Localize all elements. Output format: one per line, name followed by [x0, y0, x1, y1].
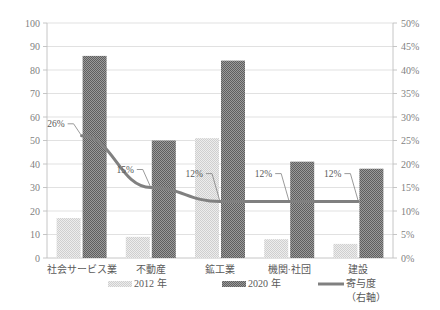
chart-container: 0102030405060708090100 0%5%10%15%20%25%3…	[0, 0, 440, 310]
right-axis-tick-label: 45%	[401, 41, 419, 52]
right-axis-tick-label: 15%	[401, 182, 419, 193]
right-axis-tick-label: 40%	[401, 65, 419, 76]
legend-swatch-2020	[222, 281, 246, 287]
left-axis-tick-label: 80	[30, 65, 40, 76]
data-label: 12%	[324, 169, 342, 179]
right-axis-tick-label: 50%	[401, 18, 419, 29]
right-axis-tick-label: 25%	[401, 135, 419, 146]
left-axis-tick-label: 0	[35, 253, 40, 264]
legend-label-2020: 2020 年	[248, 277, 281, 289]
legend-label-contribution: 寄与度	[346, 277, 376, 289]
bar-2020	[359, 169, 383, 258]
data-label: 26%	[47, 119, 65, 129]
legend-label-2012: 2012 年	[134, 277, 167, 289]
right-axis-tick-label: 20%	[401, 159, 419, 170]
left-axis-tick-label: 60	[30, 112, 40, 123]
legend-swatch-2012	[108, 281, 132, 287]
category-label: 建設	[348, 263, 368, 275]
bar-2012	[333, 244, 357, 258]
right-axis-tick-label: 10%	[401, 206, 419, 217]
left-axis-tick-label: 20	[30, 206, 40, 217]
data-label: 12%	[186, 169, 204, 179]
bar-2020	[152, 141, 176, 259]
left-axis-tick-label: 70	[30, 88, 40, 99]
category-label: 機関·社団	[268, 263, 311, 275]
left-axis-tick-label: 30	[30, 182, 40, 193]
bar-2012	[264, 239, 288, 258]
bar-2020	[290, 162, 314, 258]
left-axis-tick-label: 40	[30, 159, 40, 170]
left-axis-tick-label: 10	[30, 229, 40, 240]
right-axis-tick-label: 30%	[401, 112, 419, 123]
bar-2020	[221, 61, 245, 258]
data-label: 12%	[255, 169, 273, 179]
right-axis-tick-label: 0%	[401, 253, 414, 264]
chart-svg: 0102030405060708090100 0%5%10%15%20%25%3…	[0, 0, 440, 310]
category-label: 不動産	[136, 263, 166, 275]
left-axis-tick-label: 100	[25, 18, 40, 29]
left-axis-tick-label: 50	[30, 135, 40, 146]
data-label: 15%	[116, 165, 134, 175]
right-axis-tick-label: 35%	[401, 88, 419, 99]
left-axis-tick-label: 90	[30, 41, 40, 52]
bar-2012	[57, 218, 81, 258]
right-axis-tick-label: 5%	[401, 229, 414, 240]
category-label: 鉱工業	[205, 263, 235, 275]
category-label: 社会サービス業	[47, 263, 117, 275]
bar-2020	[83, 56, 107, 258]
legend-label-contribution-axis: （右軸）	[346, 291, 386, 303]
bar-2012	[126, 237, 150, 258]
